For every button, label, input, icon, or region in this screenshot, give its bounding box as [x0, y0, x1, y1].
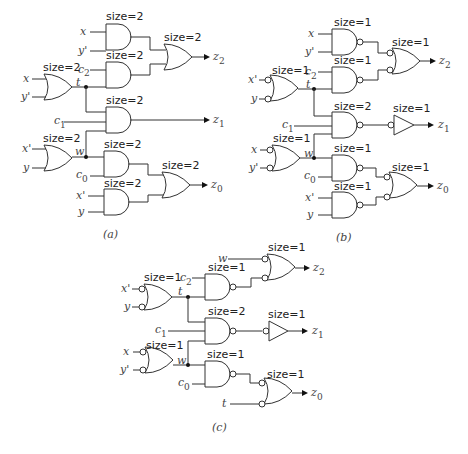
svg-text:x: x — [123, 345, 130, 358]
svg-text:1: 1 — [161, 329, 167, 339]
svg-text:z: z — [437, 118, 444, 131]
svg-text:size=2: size=2 — [164, 31, 202, 44]
svg-text:2: 2 — [311, 71, 317, 81]
svg-text:1: 1 — [60, 120, 66, 130]
svg-text:z: z — [212, 50, 219, 63]
svg-text:x: x — [308, 27, 315, 40]
svg-text:size=1: size=1 — [144, 271, 182, 284]
svg-text:x': x' — [248, 73, 257, 86]
svg-text:2: 2 — [186, 277, 192, 287]
svg-text:size=1: size=1 — [393, 102, 431, 115]
svg-text:size=2: size=2 — [106, 49, 144, 62]
svg-text:0: 0 — [443, 185, 449, 195]
svg-text:size=1: size=1 — [334, 180, 372, 193]
svg-text:t: t — [222, 397, 227, 410]
nand-gate-b5: size=1 x' y — [305, 180, 372, 221]
svg-text:z: z — [210, 178, 217, 191]
svg-text:x: x — [251, 143, 258, 156]
inverter-z1-c: size=1 z 1 — [263, 308, 324, 341]
nand-or-gate-w-c: size=1 x y' w — [119, 339, 205, 376]
inverter-z1: size=1 z 1 — [388, 102, 450, 135]
svg-text:y': y' — [77, 44, 87, 57]
svg-text:z: z — [311, 324, 318, 337]
svg-text:size=1: size=1 — [268, 308, 306, 321]
svg-text:1: 1 — [318, 330, 324, 340]
diagram-b: size=1 x y' size=1 c 2 size=1 x' y t — [248, 16, 451, 244]
svg-text:0: 0 — [82, 174, 88, 184]
svg-text:y: y — [123, 300, 131, 313]
svg-text:x: x — [80, 25, 87, 38]
svg-text:1: 1 — [219, 119, 225, 129]
nand-gate-c1: size=1 c 2 — [180, 261, 262, 300]
svg-text:z: z — [310, 386, 317, 399]
svg-text:2: 2 — [84, 68, 90, 78]
svg-text:size=2: size=2 — [104, 177, 142, 190]
svg-text:0: 0 — [310, 175, 316, 185]
size-label: size=2 — [106, 10, 144, 23]
svg-text:y': y' — [304, 45, 314, 58]
svg-text:z: z — [438, 54, 445, 67]
svg-text:size=1: size=1 — [392, 161, 430, 174]
diagram-c: w size=1 z 2 size=1 c 2 size=1 x' y t — [119, 241, 325, 434]
svg-text:x: x — [23, 72, 30, 85]
svg-text:size=1: size=1 — [334, 142, 372, 155]
svg-text:0: 0 — [184, 382, 190, 392]
and-gate-a2: size=2 c 2 — [78, 49, 144, 88]
svg-text:size=1: size=1 — [273, 132, 311, 145]
svg-text:2: 2 — [319, 267, 325, 277]
svg-text:size=2: size=2 — [43, 132, 81, 145]
svg-text:z: z — [436, 179, 443, 192]
or-gate-z2: size=2 z 2 — [130, 31, 225, 75]
svg-text:y: y — [250, 92, 258, 105]
svg-text:size=1: size=1 — [268, 241, 306, 254]
caption-c: (c) — [212, 421, 227, 434]
svg-text:size=2: size=2 — [106, 94, 144, 107]
caption-b: (b) — [336, 231, 352, 244]
svg-text:w: w — [75, 145, 85, 158]
svg-text:y': y' — [248, 161, 258, 174]
nand-or-gate-z0: size=1 z 0 — [363, 161, 449, 205]
svg-text:size=1: size=1 — [208, 261, 246, 274]
svg-text:z: z — [212, 113, 219, 126]
svg-text:x': x' — [305, 191, 314, 204]
svg-text:2: 2 — [219, 56, 225, 66]
nand-or-gate-z2: size=1 z 2 — [363, 36, 451, 80]
svg-text:size=1: size=1 — [334, 54, 372, 67]
or-gate-z0: size=2 z 0 — [128, 159, 223, 202]
svg-text:size=1: size=1 — [267, 368, 305, 381]
svg-text:x': x' — [76, 189, 85, 202]
svg-text:size=1: size=1 — [392, 36, 430, 49]
nand-gate-b2: size=1 c 2 — [305, 54, 372, 93]
svg-text:size=2: size=2 — [162, 159, 200, 172]
nand-or-gate-w: size=1 x y' w — [248, 132, 332, 174]
nand-or-gate-t-c: size=1 x' y t — [121, 271, 205, 322]
svg-text:1: 1 — [444, 124, 450, 134]
svg-text:x': x' — [22, 142, 31, 155]
svg-text:size=2: size=2 — [104, 138, 142, 151]
svg-text:y: y — [77, 205, 85, 218]
svg-text:size=2: size=2 — [43, 61, 81, 74]
nand-gate-c3: size=1 c 0 — [178, 348, 260, 392]
svg-text:0: 0 — [317, 392, 323, 402]
svg-text:size=1: size=1 — [207, 348, 245, 361]
svg-text:x': x' — [121, 282, 130, 295]
svg-text:y: y — [306, 208, 314, 221]
svg-text:y: y — [22, 161, 30, 174]
or-gate-t: size=2 x y' t — [20, 61, 106, 112]
or-gate-w: size=2 x' y w — [22, 132, 106, 174]
circuit-figure: size=2 x y' size=2 c 2 size=2 x y' t — [0, 0, 468, 454]
svg-text:y': y' — [20, 90, 30, 103]
diagram-a: size=2 x y' size=2 c 2 size=2 x y' t — [20, 10, 225, 241]
caption-a: (a) — [103, 228, 118, 241]
svg-text:size=2: size=2 — [208, 305, 246, 318]
svg-text:0: 0 — [217, 184, 223, 194]
svg-text:z: z — [312, 261, 319, 274]
svg-text:size=1: size=1 — [146, 339, 184, 352]
svg-text:size=2: size=2 — [334, 100, 372, 113]
svg-text:t: t — [178, 285, 183, 298]
svg-text:size=1: size=1 — [272, 64, 310, 77]
svg-text:size=1: size=1 — [334, 16, 372, 29]
nand-gate-b1: size=1 x y' — [304, 16, 372, 58]
svg-text:2: 2 — [445, 60, 451, 70]
svg-text:y': y' — [119, 363, 129, 376]
